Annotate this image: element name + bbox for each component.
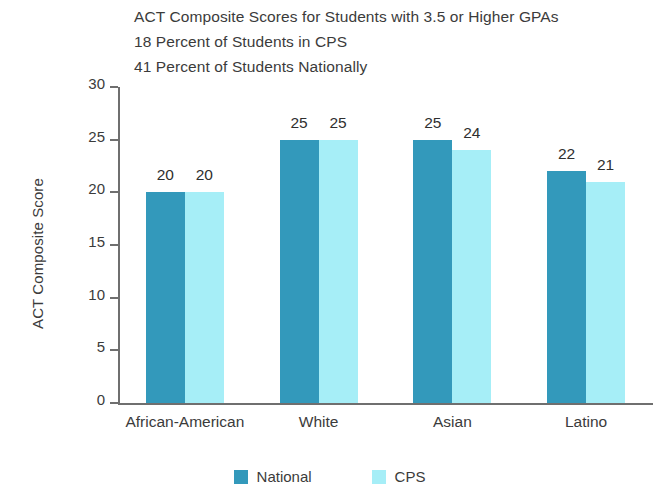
bar-national-white [280,140,319,403]
y-axis-tick-label: 5 [97,338,105,355]
legend-label: CPS [395,468,426,485]
x-axis-line [118,403,653,405]
y-axis-tick: 25 [110,139,118,141]
bar-value-label: 21 [580,156,631,174]
legend-swatch-icon [372,470,386,484]
bar-national-asian [413,140,452,403]
chart-legend: NationalCPS [0,468,659,485]
bar-cps-white [319,140,358,403]
y-axis-tick: 0 [110,402,118,404]
x-axis-label-asian: Asian [376,413,530,431]
bar-value-label: 25 [313,114,364,132]
chart-subtitle-national: 41 Percent of Students Nationally [134,54,654,79]
chart-subtitle-cps: 18 Percent of Students in CPS [134,29,654,54]
chart-title-block: ACT Composite Scores for Students with 3… [134,4,654,79]
x-axis-label-white: White [242,413,396,431]
x-axis-label-african-american: African-American [108,413,262,431]
plot-area: 051015202530 2020252525242221 African-Am… [118,87,653,403]
legend-item-national[interactable]: National [234,468,312,485]
y-axis-tick: 15 [110,244,118,246]
legend-item-cps[interactable]: CPS [372,468,426,485]
y-axis-tick-label: 30 [88,75,105,92]
bar-national-latino [547,171,586,403]
bar-cps-asian [452,150,491,403]
y-axis-tick: 5 [110,349,118,351]
bar-cps-african-american [185,192,224,403]
bar-value-label: 20 [179,166,230,184]
chart-title: ACT Composite Scores for Students with 3… [134,4,654,29]
y-axis-title: ACT Composite Score [29,144,46,364]
bar-cps-latino [586,182,625,403]
y-axis-tick: 10 [110,297,118,299]
y-axis-tick-label: 10 [88,286,105,303]
y-axis-line [118,87,120,403]
bar-value-label: 24 [446,124,497,142]
y-axis-tick: 30 [110,86,118,88]
x-axis-label-latino: Latino [509,413,659,431]
y-axis-tick: 20 [110,191,118,193]
y-axis-tick-label: 25 [88,128,105,145]
y-axis-tick-label: 0 [97,391,105,408]
legend-swatch-icon [234,470,248,484]
y-axis-tick-label: 20 [88,180,105,197]
y-axis-tick-label: 15 [88,233,105,250]
bar-national-african-american [146,192,185,403]
legend-label: National [257,468,312,485]
